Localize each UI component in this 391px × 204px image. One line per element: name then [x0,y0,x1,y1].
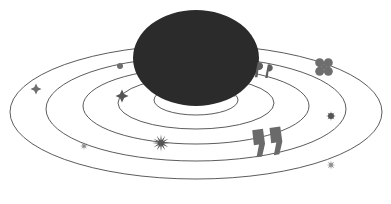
dot-star-right [326,111,336,121]
sparkle-icon [80,142,88,150]
sparkle-lower-left [80,142,88,150]
dot-upper-left [117,63,123,69]
sparkle-bottom-right [327,161,336,170]
four-point-star-left-outer [31,84,42,95]
quote-large-pair [252,127,284,158]
clover-icon [315,58,333,76]
speech-bubble-layer [133,10,259,106]
clover-right-upper [315,58,333,76]
sparkle-icon [327,161,336,170]
quote-mark-large-icon [252,127,284,158]
orbit-scene [0,0,391,204]
four-point-star-icon [31,84,42,95]
illustration-canvas [0,0,391,204]
speech-bubble [133,10,259,106]
starburst-bottom-center [153,135,170,152]
dot-star-icon [326,111,336,121]
dot-icon [117,63,123,69]
starburst-icon [153,135,170,152]
